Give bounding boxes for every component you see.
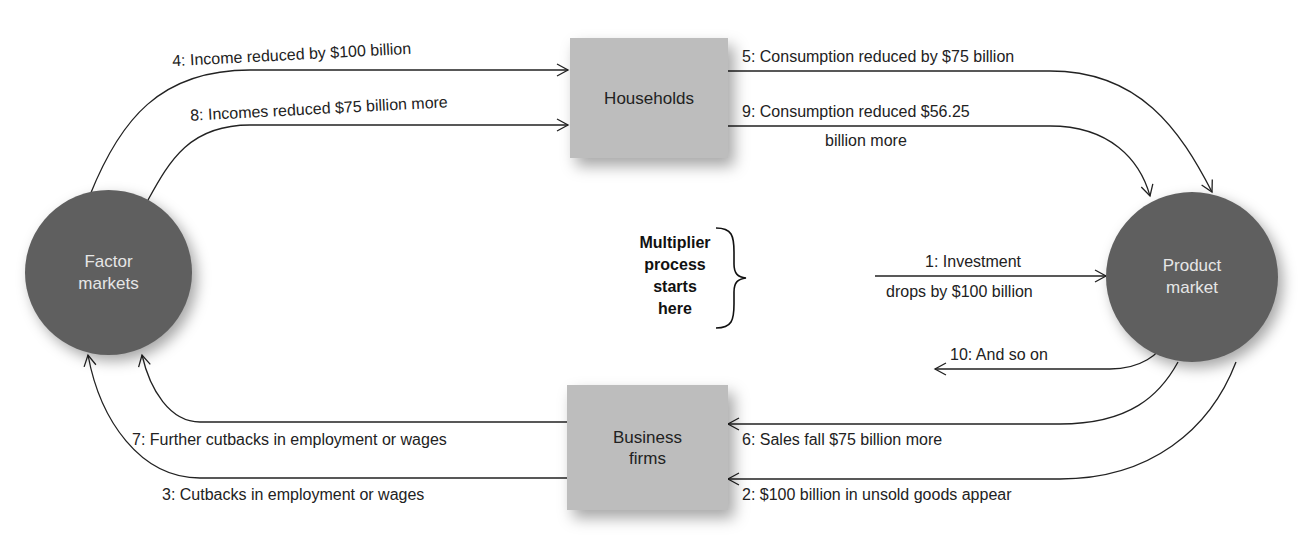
product-market-label-2: market <box>1166 277 1218 299</box>
households-node: Households <box>570 38 728 158</box>
business-firms-label-1: Business <box>613 427 682 448</box>
arrow-step-8 <box>148 125 568 200</box>
business-firms-label-2: firms <box>629 448 666 469</box>
business-firms-node: Business firms <box>567 385 728 510</box>
flow-label-5: 5: Consumption reduced by $75 billion <box>742 48 1014 66</box>
curly-brace <box>716 228 746 328</box>
start-note-line: Multiplier <box>630 232 720 254</box>
product-market-node: Product market <box>1106 192 1278 362</box>
arrow-step-6 <box>728 362 1178 424</box>
flow-label-1-line1: 1: Investment <box>925 253 1021 271</box>
product-market-label-1: Product <box>1163 255 1222 277</box>
arrow-step-2 <box>728 362 1236 479</box>
arrow-step-3 <box>88 355 567 478</box>
start-note-line: process <box>630 254 720 276</box>
flow-label-1-line2: drops by $100 billion <box>886 283 1033 301</box>
flow-label-3: 3: Cutbacks in employment or wages <box>162 486 424 504</box>
factor-markets-label-2: markets <box>78 273 138 295</box>
flow-label-2: 2: $100 billion in unsold goods appear <box>742 486 1012 504</box>
arrow-step-9 <box>728 126 1150 196</box>
flow-label-10: 10: And so on <box>950 346 1048 364</box>
factor-markets-node: Factor markets <box>25 190 192 355</box>
start-note-line: here <box>630 298 720 320</box>
factor-markets-label-1: Factor <box>84 251 132 273</box>
flow-label-6: 6: Sales fall $75 billion more <box>742 431 942 449</box>
arrow-step-5 <box>728 71 1212 192</box>
households-label: Households <box>604 88 694 109</box>
start-note-line: starts <box>630 276 720 298</box>
flow-label-9-line1: 9: Consumption reduced $56.25 <box>742 103 970 121</box>
flow-label-7: 7: Further cutbacks in employment or wag… <box>132 431 447 449</box>
arrow-step-7 <box>142 355 567 422</box>
multiplier-start-note: Multiplier process starts here <box>630 232 720 320</box>
flow-label-9-line2: billion more <box>825 132 907 150</box>
